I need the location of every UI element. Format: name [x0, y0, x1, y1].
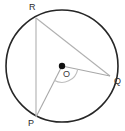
- chord-rq-line: [36, 18, 110, 76]
- figure-canvas: [0, 0, 125, 131]
- circle-geometry-figure: R Q P O: [0, 0, 125, 131]
- vertex-label-p: P: [28, 119, 34, 128]
- radius-op-line: [36, 66, 62, 117]
- vertex-label-q: Q: [114, 77, 121, 86]
- vertex-label-r: R: [29, 3, 36, 12]
- center-label-o: O: [63, 70, 70, 79]
